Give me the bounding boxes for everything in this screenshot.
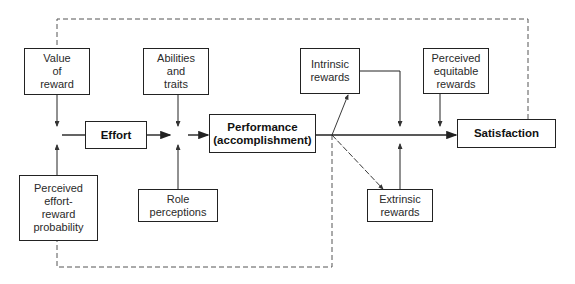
node-perceived-equitable-rewards: Perceived equitable rewards bbox=[423, 48, 489, 94]
node-label: Value of reward bbox=[40, 52, 74, 91]
node-label: Satisfaction bbox=[474, 127, 539, 140]
node-intrinsic-rewards: Intrinsic rewards bbox=[300, 48, 360, 94]
node-satisfaction: Satisfaction bbox=[457, 119, 556, 148]
node-effort: Effort bbox=[85, 121, 147, 149]
node-abilities-traits: Abilities and traits bbox=[143, 48, 209, 95]
node-label: Abilities and traits bbox=[157, 52, 195, 91]
node-label: Extrinsic rewards bbox=[379, 193, 421, 219]
node-performance: Performance (accomplishment) bbox=[209, 114, 316, 153]
node-label: Intrinsic rewards bbox=[310, 58, 349, 84]
node-role-perceptions: Role perceptions bbox=[138, 189, 218, 222]
node-extrinsic-rewards: Extrinsic rewards bbox=[367, 189, 433, 222]
node-label: Performance (accomplishment) bbox=[213, 121, 311, 147]
node-label: Perceived equitable rewards bbox=[432, 52, 481, 91]
node-label: Role perceptions bbox=[150, 193, 207, 219]
node-label: Effort bbox=[101, 129, 132, 142]
node-perceived-effort-reward-probability: Perceived effort- reward probability bbox=[19, 175, 98, 241]
node-value-of-reward: Value of reward bbox=[24, 48, 90, 95]
node-label: Perceived effort- reward probability bbox=[33, 182, 83, 234]
